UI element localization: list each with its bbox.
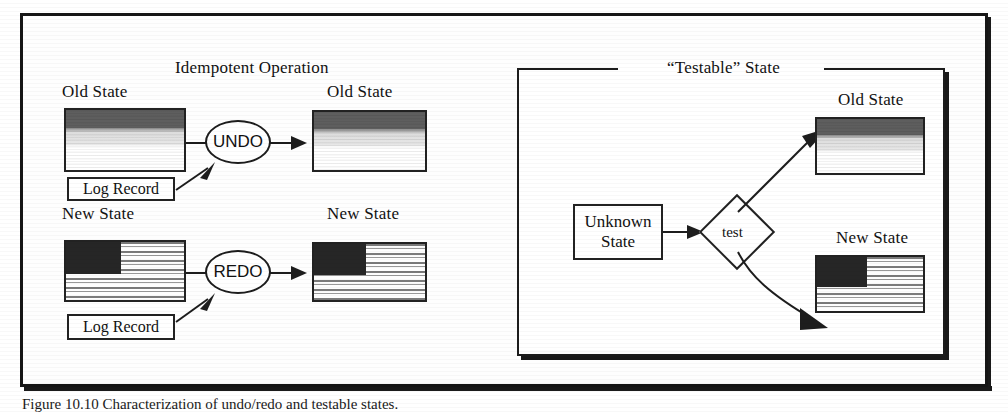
redo-operation-label: REDO xyxy=(213,262,262,282)
left-row1-result-state-box xyxy=(312,110,427,172)
right-outcome-bottom-state-box xyxy=(815,255,925,313)
left-row2-source-label: New State xyxy=(62,204,134,224)
state-fill-dark-block xyxy=(314,244,366,275)
right-panel-title: “Testable” State xyxy=(667,58,780,78)
state-fill-dark-block xyxy=(66,242,121,274)
right-outcome-top-state-box xyxy=(815,117,925,175)
state-fill-dark-block xyxy=(817,257,867,287)
arrow-log-to-redo xyxy=(174,290,220,324)
state-fill-text-lines xyxy=(314,244,425,300)
connector-source-to-undo xyxy=(186,142,207,144)
state-fill-text-lines xyxy=(817,257,923,311)
left-row2-source-state-box xyxy=(64,240,186,302)
arrow-log-to-undo xyxy=(174,160,220,192)
right-outcome-bottom-label: New State xyxy=(836,228,908,248)
left-panel-title: Idempotent Operation xyxy=(175,58,329,78)
undo-operation-node: UNDO xyxy=(205,120,271,164)
unknown-state-label-line2: State xyxy=(601,232,635,252)
state-fill-banded-gradient xyxy=(66,110,184,170)
left-row2-log-record-box: Log Record xyxy=(67,314,175,340)
left-row2-log-record-label: Log Record xyxy=(83,318,159,336)
left-row1-source-label: Old State xyxy=(62,82,128,102)
left-row1-log-record-box: Log Record xyxy=(67,177,175,201)
left-row1-source-state-box xyxy=(64,108,186,172)
left-row2-result-state-box xyxy=(312,242,427,302)
arrow-redo-to-result xyxy=(269,262,309,284)
unknown-state-box: Unknown State xyxy=(573,204,663,260)
right-outcome-top-label: Old State xyxy=(838,90,904,110)
arrow-undo-to-result xyxy=(269,132,309,154)
test-decision-label: test xyxy=(722,224,743,241)
undo-operation-label: UNDO xyxy=(213,132,263,152)
left-row1-result-label: Old State xyxy=(327,82,393,102)
figure-root: Idempotent Operation Old State UNDO Old … xyxy=(0,0,1008,412)
left-row2-result-label: New State xyxy=(327,204,399,224)
state-fill-text-lines xyxy=(66,242,184,300)
left-row1-log-record-label: Log Record xyxy=(83,180,159,198)
connector-source-to-redo xyxy=(186,272,207,274)
figure-caption: Figure 10.10 Characterization of undo/re… xyxy=(22,396,398,412)
unknown-state-label-line1: Unknown xyxy=(584,212,651,232)
redo-operation-node: REDO xyxy=(205,250,271,294)
state-fill-banded-gradient xyxy=(314,112,425,170)
state-fill-banded-gradient xyxy=(817,119,923,173)
